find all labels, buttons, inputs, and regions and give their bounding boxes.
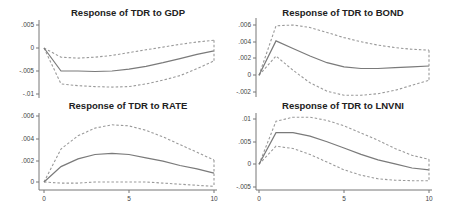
lower-ci-line	[44, 182, 214, 186]
y-tick-label: -.01	[23, 90, 35, 97]
y-tick-label: .004	[238, 38, 251, 45]
y-tick-label: .01	[242, 115, 251, 122]
upper-ci-line	[44, 40, 214, 58]
y-tick-label: 0	[30, 178, 34, 185]
x-tick-label: 5	[127, 195, 131, 202]
y-tick-label: .002	[238, 54, 251, 61]
irf-line	[44, 153, 214, 182]
y-tick-label: .002	[21, 157, 34, 164]
lower-ci-line	[44, 48, 214, 87]
irf-chart-grid: Response of TDR to GDP .0050-.005-.01 Re…	[0, 0, 451, 213]
panel-title: Response of TDR to BOND	[282, 7, 404, 18]
y-tick-label: 0	[30, 44, 34, 51]
x-tick-label: 10	[210, 195, 218, 202]
y-tick-label: 0	[247, 71, 251, 78]
y-tick-label: .004	[21, 135, 34, 142]
y-tick-label: 0	[247, 160, 251, 167]
panel-lnvni: Response of TDR to LNVNI .01.0050-.005 0…	[236, 100, 433, 202]
y-tick-label: .005	[238, 138, 251, 145]
x-axis-ticks: 0510	[42, 190, 218, 202]
panel-gdp: Response of TDR to GDP .0050-.005-.01	[19, 7, 214, 98]
y-tick-label: .006	[238, 21, 251, 28]
y-tick-label: -.002	[236, 88, 251, 95]
irf-line	[44, 48, 214, 72]
x-tick-label: 0	[42, 195, 46, 202]
y-tick-label: .005	[21, 21, 34, 28]
x-axis-ticks: 0510	[257, 190, 433, 202]
upper-ci-line	[44, 125, 214, 182]
panel-title: Response of TDR to RATE	[69, 100, 188, 111]
panel-bond: Response of TDR to BOND .006.004.0020-.0…	[236, 7, 429, 97]
y-tick-label: -.005	[19, 67, 34, 74]
y-axis-ticks: .0050-.005-.01	[19, 21, 39, 97]
y-axis-ticks: .01.0050-.005	[236, 115, 256, 190]
panel-title: Response of TDR to LNVNI	[282, 100, 404, 111]
panel-title: Response of TDR to GDP	[71, 7, 186, 18]
y-axis-ticks: .006.004.0020-.002	[236, 21, 256, 95]
y-tick-label: -.005	[236, 183, 251, 190]
y-tick-label: .006	[21, 112, 34, 119]
x-tick-label: 5	[342, 195, 346, 202]
upper-ci-line	[259, 117, 429, 164]
y-axis-ticks: .006.004.0020	[21, 112, 39, 185]
x-tick-label: 10	[425, 195, 433, 202]
lower-ci-line	[259, 56, 429, 95]
x-tick-label: 0	[257, 195, 261, 202]
irf-line	[259, 133, 429, 170]
irf-line	[259, 41, 429, 75]
panel-rate: Response of TDR to RATE .006.004.0020 05…	[21, 100, 218, 202]
